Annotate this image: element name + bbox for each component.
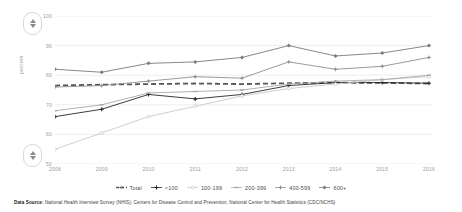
data-point-marker (154, 186, 158, 190)
plot-area (55, 16, 433, 164)
x-axis-tick-label: 2014 (330, 166, 342, 172)
data-point-marker (240, 55, 244, 59)
legend-item-label: Total (130, 185, 142, 191)
data-point-marker (380, 79, 384, 80)
data-point-marker (286, 59, 291, 64)
x-axis-tick-label: 2013 (283, 166, 295, 172)
data-point-marker (323, 186, 327, 190)
data-point-marker (193, 97, 197, 101)
legend-marker-icon (151, 184, 162, 191)
data-point-marker (287, 83, 291, 84)
data-point-marker (427, 75, 431, 76)
data-point-marker (334, 80, 338, 81)
data-source-label: Data Source: (14, 200, 44, 205)
x-axis-tick-label: 2011 (189, 166, 201, 172)
data-point-marker (100, 70, 104, 74)
legend-item-label: 400-599 (289, 185, 310, 191)
data-point-marker (427, 81, 431, 85)
x-axis-tick-label: 2015 (376, 166, 388, 172)
legend-item-200-399[interactable]: 200-399 (231, 184, 266, 191)
data-point-marker (287, 87, 290, 90)
legend-marker-icon (116, 184, 127, 191)
legend-marker-icon (231, 184, 242, 191)
data-point-marker (334, 83, 337, 86)
data-point-marker (240, 89, 244, 90)
data-point-marker (100, 131, 103, 134)
data-point-marker (380, 64, 385, 69)
series-100-199 (55, 75, 431, 151)
legend-item-400-599[interactable]: 400-599 (275, 184, 310, 191)
legend-marker-icon (187, 184, 198, 191)
y-axis-tick-label: 80 (30, 72, 52, 78)
series-line (55, 83, 429, 117)
x-axis-tick-label: 2009 (96, 166, 108, 172)
x-axis-tick-label: 2016 (423, 166, 435, 172)
data-point-marker (235, 187, 239, 188)
y-axis-tick-label: 100 (30, 13, 52, 19)
series-line (55, 77, 429, 150)
x-axis-tick-label: 2010 (143, 166, 155, 172)
chart-legend: Total<100100-199200-399400-599600+ (0, 184, 462, 191)
data-point-marker (194, 105, 197, 108)
legend-item-100-199[interactable]: 100-199 (187, 184, 222, 191)
legend-marker-icon (319, 184, 330, 191)
y-axis-label: percent (18, 55, 24, 74)
legend-item-label: <100 (165, 185, 178, 191)
data-point-marker (55, 67, 57, 71)
chart-page: percent 5060708090100 200820092010201120… (0, 0, 462, 212)
legend-item-label: 200-399 (245, 185, 266, 191)
data-point-marker (278, 185, 283, 190)
data-point-marker (427, 44, 431, 48)
line-chart-svg (55, 16, 433, 164)
data-point-marker (147, 61, 151, 65)
data-point-marker (241, 94, 244, 97)
data-point-marker (333, 67, 338, 72)
legend-item-600-[interactable]: 600+ (319, 184, 346, 191)
data-point-marker (334, 54, 338, 58)
x-axis-tick-label: 2008 (49, 166, 61, 172)
y-axis-tick-label: 90 (30, 43, 52, 49)
y-axis-tick-label: 60 (30, 131, 52, 137)
x-axis: 200820092010201120122013201420152016 (55, 166, 433, 176)
data-point-marker (119, 187, 123, 188)
data-point-marker (100, 104, 104, 105)
series-600- (55, 44, 431, 75)
data-point-marker (147, 115, 150, 118)
legend-item-label: 100-199 (201, 185, 222, 191)
data-point-marker (380, 51, 384, 55)
y-axis: 5060708090100 (28, 16, 52, 164)
data-point-marker (146, 79, 151, 84)
data-point-marker (147, 92, 151, 93)
data-point-marker (191, 186, 194, 189)
data-point-marker (55, 110, 57, 111)
data-point-marker (100, 107, 104, 111)
x-axis-tick-label: 2012 (236, 166, 248, 172)
data-point-marker (287, 44, 291, 48)
legend-item--100[interactable]: <100 (151, 184, 178, 191)
data-point-marker (55, 148, 57, 151)
data-source-text: National Health Interview Survey (NHIS);… (44, 200, 336, 205)
data-point-marker (55, 115, 57, 119)
data-point-marker (193, 91, 197, 92)
legend-item-total[interactable]: Total (116, 184, 142, 191)
data-source-note: Data Source: National Health Interview S… (14, 200, 335, 205)
data-point-marker (193, 60, 197, 64)
data-point-marker (240, 76, 245, 81)
series--100 (55, 81, 431, 119)
legend-marker-icon (275, 184, 286, 191)
legend-item-label: 600+ (333, 185, 346, 191)
data-point-marker (427, 55, 432, 60)
y-axis-tick-label: 70 (30, 102, 52, 108)
